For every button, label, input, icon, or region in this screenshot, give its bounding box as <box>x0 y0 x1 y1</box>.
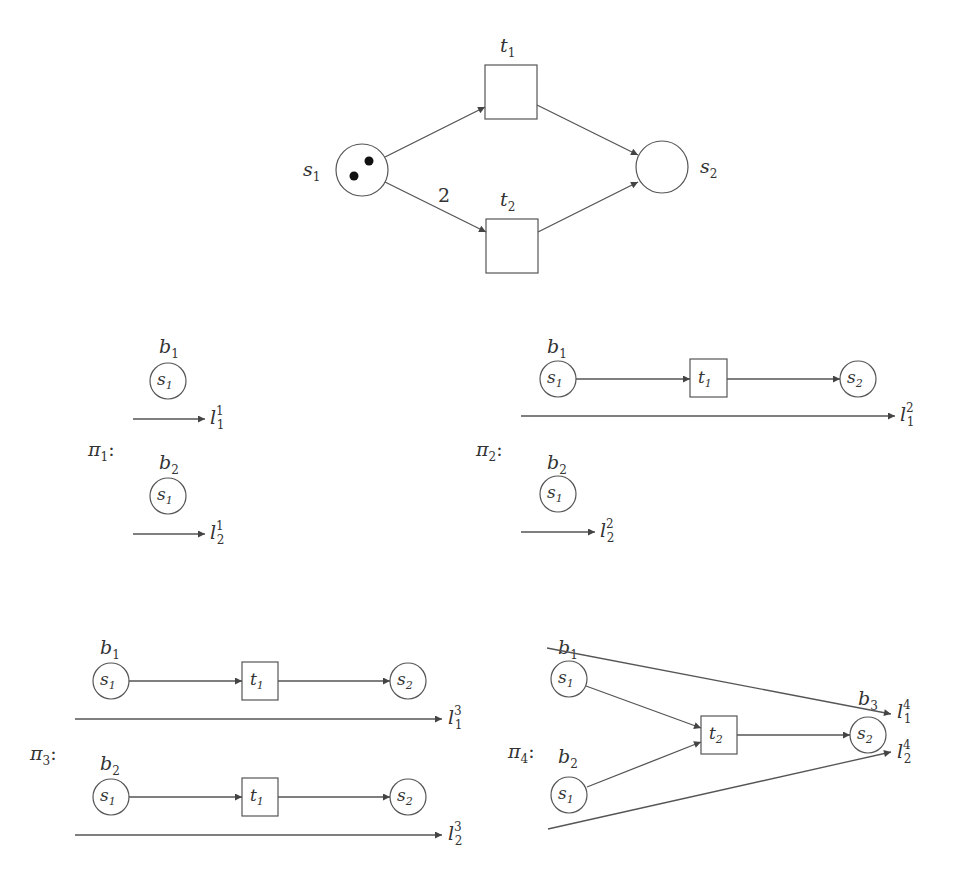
process-pi3: π3: b1 s1 t1 s2 l31 b2 s1 t1 s2 l32 <box>29 636 462 848</box>
svg-text:s1: s1 <box>303 158 320 184</box>
process-pi2: π2: b1 s1 t1 s2 l21 b2 s1 l22 <box>475 335 914 545</box>
svg-text:b1: b1 <box>547 335 567 361</box>
token-icon <box>365 157 374 166</box>
svg-text:s2: s2 <box>700 155 717 181</box>
svg-text:l41: l41 <box>897 698 911 726</box>
petri-net-diagram: s1 s2 t1 t2 2 π1: b1 s1 l11 b2 s <box>0 0 963 884</box>
svg-text:l22: l22 <box>600 517 614 545</box>
svg-text:l12: l12 <box>210 519 224 547</box>
place-label: s <box>303 158 313 180</box>
svg-text:l11: l11 <box>210 404 224 432</box>
svg-text:t1: t1 <box>500 34 515 60</box>
svg-text:b2: b2 <box>159 451 179 477</box>
transition-t1: t1 <box>485 34 537 119</box>
net-top: s1 s2 t1 t2 2 <box>303 34 717 273</box>
process-pi4: π4: b1 s1 b2 s1 t2 b3 s2 l41 l42 <box>507 636 911 829</box>
svg-text:l42: l42 <box>897 738 911 766</box>
process-pi1: π1: b1 s1 l11 b2 s1 l12 <box>87 335 224 547</box>
svg-text:l32: l32 <box>448 820 462 848</box>
svg-text:π1:: π1: <box>87 438 115 464</box>
svg-text:b1: b1 <box>159 335 179 361</box>
svg-text:b2: b2 <box>100 752 120 778</box>
svg-text:π2:: π2: <box>475 438 503 464</box>
svg-text:t2: t2 <box>500 188 515 214</box>
svg-text:l21: l21 <box>900 401 914 429</box>
svg-text:π4:: π4: <box>507 740 535 766</box>
svg-text:b2: b2 <box>547 451 567 477</box>
transition-t2: t2 <box>486 188 538 273</box>
arc <box>385 107 485 157</box>
place-s2: s2 <box>636 141 717 193</box>
svg-text:b1: b1 <box>100 636 120 662</box>
place-s1: s1 <box>303 144 388 196</box>
svg-text:π3:: π3: <box>29 742 57 768</box>
arc <box>538 182 638 232</box>
token-icon <box>350 172 359 181</box>
arc <box>385 182 486 232</box>
arc-weight-label: 2 <box>438 184 450 206</box>
svg-text:b2: b2 <box>558 745 578 771</box>
svg-text:b1: b1 <box>558 636 578 662</box>
arc <box>537 105 638 155</box>
svg-text:l31: l31 <box>448 704 462 732</box>
